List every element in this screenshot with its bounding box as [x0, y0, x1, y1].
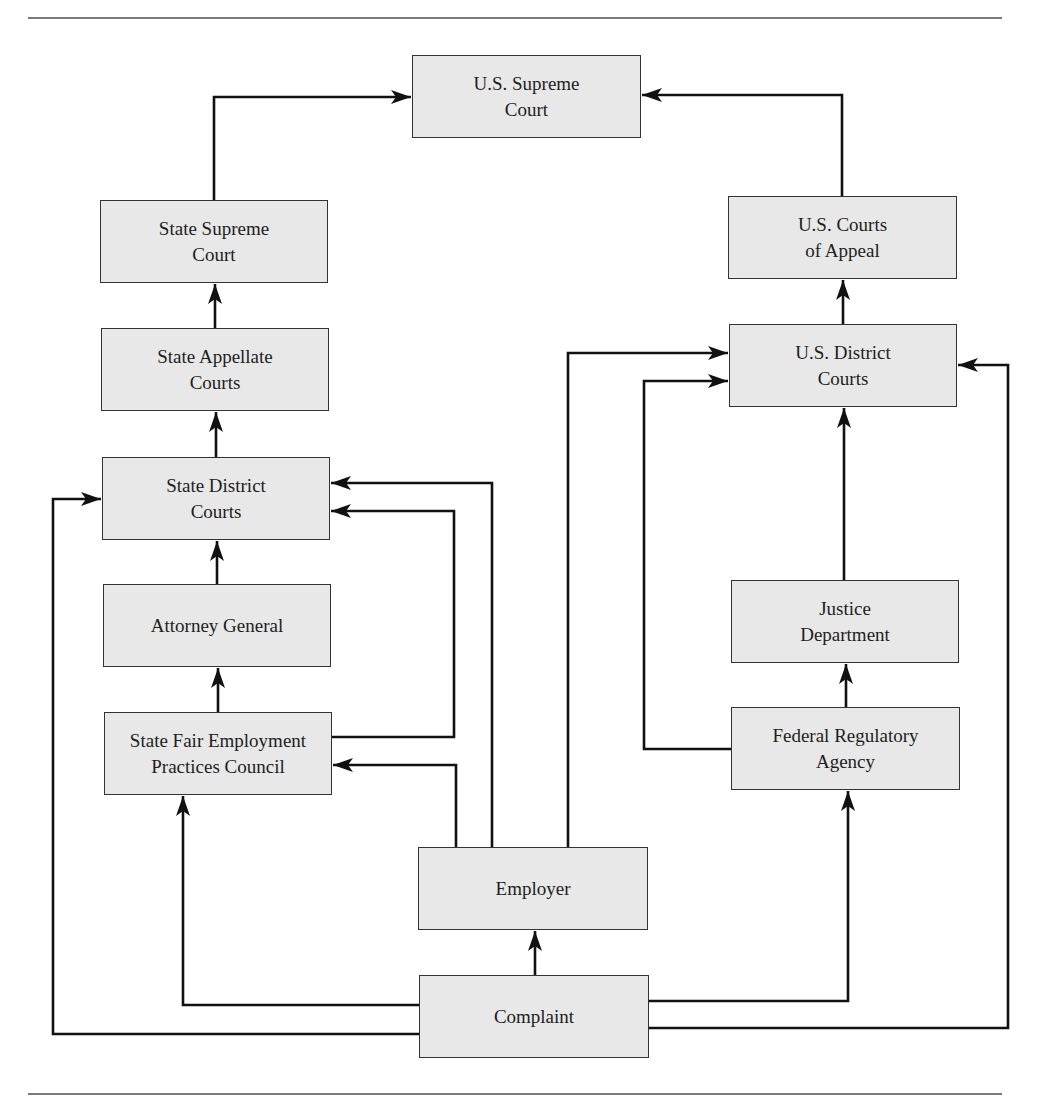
node-label: State Appellate [157, 344, 273, 370]
node-attorney-general: Attorney General [103, 584, 331, 667]
node-employer: Employer [418, 847, 648, 930]
node-label: Courts [166, 499, 266, 525]
node-label: Federal Regulatory [772, 723, 918, 749]
node-state-supreme-court: State SupremeCourt [100, 200, 328, 283]
node-label: U.S. Supreme [473, 71, 579, 97]
node-label: State Supreme [159, 216, 269, 242]
node-label: Department [800, 622, 890, 648]
node-label: Attorney General [151, 613, 283, 639]
node-state-appellate-courts: State AppellateCourts [101, 328, 329, 411]
connector-lines [0, 0, 1056, 1106]
node-us-district-courts: U.S. DistrictCourts [729, 324, 957, 407]
node-label: Employer [496, 876, 571, 902]
node-label: Courts [795, 366, 891, 392]
node-state-fepc: State Fair EmploymentPractices Council [104, 712, 332, 795]
node-label: Justice [800, 596, 890, 622]
node-label: Court [159, 242, 269, 268]
node-label: Court [473, 97, 579, 123]
node-label: State Fair Employment [130, 728, 306, 754]
node-label: Courts [157, 370, 273, 396]
node-label: U.S. District [795, 340, 891, 366]
node-justice-department: JusticeDepartment [731, 580, 959, 663]
node-us-supreme-court: U.S. SupremeCourt [412, 55, 641, 138]
node-state-district-courts: State DistrictCourts [102, 457, 330, 540]
node-label: State District [166, 473, 266, 499]
node-us-courts-of-appeal: U.S. Courtsof Appeal [728, 196, 957, 279]
node-complaint: Complaint [419, 975, 649, 1058]
node-label: U.S. Courts [798, 212, 887, 238]
node-federal-regulatory-agency: Federal RegulatoryAgency [731, 707, 960, 790]
node-label: Complaint [494, 1004, 574, 1030]
node-label: Practices Council [130, 754, 306, 780]
bottom-rule [28, 1093, 1002, 1095]
node-label: Agency [772, 749, 918, 775]
node-label: of Appeal [798, 238, 887, 264]
